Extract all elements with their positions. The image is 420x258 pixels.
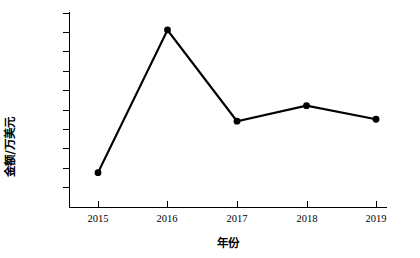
data-point-2019 xyxy=(373,116,380,123)
data-point-2015 xyxy=(95,169,102,176)
data-point-2018 xyxy=(303,102,310,109)
data-point-2016 xyxy=(164,27,171,34)
series-markers xyxy=(95,27,380,176)
series-layer xyxy=(0,0,420,258)
data-point-2017 xyxy=(234,118,241,125)
line-chart: 金额/万美元 100 000 90 000 80 000 70 000 60 0… xyxy=(0,0,420,258)
series-line-金额 xyxy=(98,30,376,173)
